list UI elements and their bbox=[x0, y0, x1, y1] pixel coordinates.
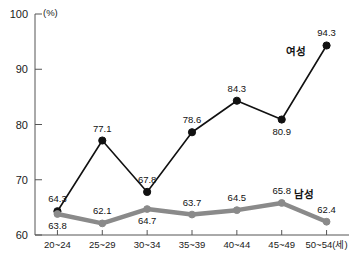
line-chart: 60708090100 20~2425~2930~3435~3940~4445~… bbox=[0, 0, 358, 259]
data-point-value-label: 63.8 bbox=[40, 221, 74, 231]
y-axis-tick-label: 90 bbox=[2, 64, 28, 75]
y-axis-tick-label: 60 bbox=[2, 230, 28, 241]
data-point-value-label: 62.1 bbox=[85, 206, 119, 216]
data-point-value-label: 84.3 bbox=[220, 84, 254, 94]
data-point-marker bbox=[323, 42, 330, 49]
data-point-value-label: 94.3 bbox=[310, 28, 344, 38]
data-point-value-label: 64.5 bbox=[220, 193, 254, 203]
y-axis-tick-label: 80 bbox=[2, 120, 28, 131]
x-axis-tick-label: 50~54(세) bbox=[295, 240, 358, 250]
series-name-female: 여성 bbox=[286, 46, 306, 57]
data-point-value-label: 62.4 bbox=[310, 205, 344, 215]
data-point-marker bbox=[233, 97, 240, 104]
data-point-value-label: 64.3 bbox=[40, 194, 74, 204]
data-point-marker bbox=[278, 116, 285, 123]
data-point-value-label: 77.1 bbox=[85, 124, 119, 134]
data-point-value-label: 78.6 bbox=[175, 115, 209, 125]
data-point-value-label: 63.7 bbox=[175, 198, 209, 208]
data-point-marker bbox=[323, 218, 330, 225]
data-point-value-label: 64.7 bbox=[130, 216, 164, 226]
y-axis-tick-label: 100 bbox=[2, 9, 28, 20]
data-point-marker bbox=[278, 200, 285, 207]
y-axis-tick-label: 70 bbox=[2, 175, 28, 186]
data-point-marker bbox=[99, 137, 106, 144]
y-axis-unit-label: (%) bbox=[43, 8, 58, 18]
data-point-marker bbox=[188, 129, 195, 136]
data-point-marker bbox=[99, 220, 106, 227]
data-point-marker bbox=[54, 211, 61, 218]
data-point-marker bbox=[144, 206, 151, 213]
data-point-marker bbox=[144, 188, 151, 195]
series-name-male: 남성 bbox=[294, 189, 314, 200]
data-point-marker bbox=[189, 211, 196, 218]
data-point-value-label: 80.9 bbox=[265, 127, 299, 137]
data-point-value-label: 67.8 bbox=[130, 175, 164, 185]
data-point-marker bbox=[233, 207, 240, 214]
